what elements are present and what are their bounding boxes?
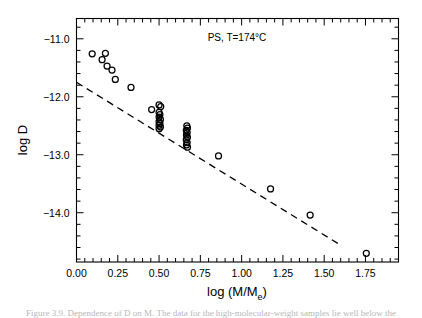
x-tick-label: 1.50: [314, 267, 335, 279]
y-tick-label: −14.0: [43, 207, 70, 219]
x-tick-label: 0.75: [190, 267, 211, 279]
x-axis-title-main: log (M/M: [207, 284, 258, 299]
y-tick-label: −13.0: [43, 149, 70, 161]
x-tick-label: 1.75: [355, 267, 376, 279]
y-tick-label: −12.0: [43, 91, 70, 103]
y-axis-title: log D: [15, 125, 30, 155]
y-tick-label: −11.0: [44, 33, 70, 45]
x-tick-label: 1.00: [231, 267, 252, 279]
x-tick-label: 0.50: [149, 267, 170, 279]
figure-caption: Figure 3.9. Dependence of D on M. The da…: [0, 306, 422, 318]
figure-container: 0.000.250.500.751.001.251.501.75 −11.0−1…: [0, 0, 422, 318]
x-tick-label: 1.25: [273, 267, 294, 279]
x-tick-label: 0.25: [108, 267, 129, 279]
plot-annotation: PS, T=174°C: [208, 32, 267, 43]
x-tick-label: 0.00: [66, 267, 87, 279]
x-axis-title-tail: ): [263, 284, 267, 299]
diffusion-vs-molecular-weight-chart: 0.000.250.500.751.001.251.501.75 −11.0−1…: [0, 0, 422, 318]
